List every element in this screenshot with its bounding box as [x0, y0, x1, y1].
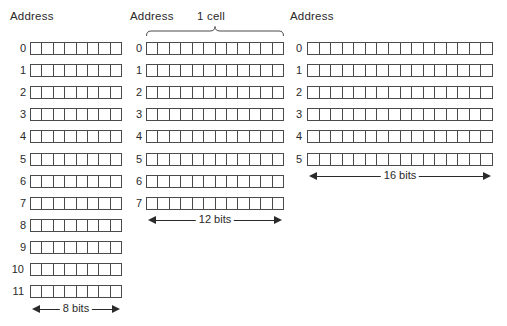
bit-box	[111, 65, 121, 76]
bit-box	[401, 154, 413, 165]
bit-box	[158, 176, 169, 187]
bit-box	[435, 65, 447, 76]
bit-box	[158, 109, 169, 120]
bit-box	[65, 220, 76, 231]
bit-box	[65, 242, 76, 253]
bit-box	[447, 109, 459, 120]
bit-box	[308, 131, 320, 142]
bit-box	[412, 43, 424, 54]
arrow-right-icon	[483, 172, 491, 180]
memory-cell	[30, 64, 122, 77]
bit-box	[65, 264, 76, 275]
bit-box	[481, 65, 492, 76]
memory-cell	[30, 42, 122, 55]
bit-box	[354, 43, 366, 54]
memory-cell	[30, 219, 122, 232]
bit-box	[111, 198, 121, 209]
bit-box	[204, 198, 215, 209]
address-number: 2	[288, 86, 302, 98]
bit-box	[65, 131, 76, 142]
bit-box	[204, 43, 215, 54]
bit-box	[238, 154, 249, 165]
bit-box	[366, 87, 378, 98]
bit-box	[111, 87, 121, 98]
bit-box	[261, 154, 272, 165]
memory-cell	[146, 175, 284, 188]
bit-box	[54, 131, 65, 142]
bit-box	[181, 65, 192, 76]
bit-box	[77, 220, 88, 231]
bit-box	[447, 65, 459, 76]
bit-box	[54, 43, 65, 54]
bit-box	[77, 198, 88, 209]
bit-box	[204, 154, 215, 165]
bit-box	[354, 109, 366, 120]
cell-label: 1 cell	[197, 10, 225, 22]
bit-box	[273, 43, 283, 54]
bit-box	[204, 131, 215, 142]
width-label: 16 bits	[381, 169, 419, 181]
bit-box	[308, 87, 320, 98]
bit-box	[435, 87, 447, 98]
bit-box	[216, 154, 227, 165]
bit-box	[216, 87, 227, 98]
bit-box	[88, 131, 99, 142]
address-number: 10	[10, 263, 24, 275]
bit-box	[54, 264, 65, 275]
brace-icon	[146, 26, 284, 38]
address-header: Address	[130, 10, 174, 22]
bit-box	[31, 242, 42, 253]
bit-box	[158, 43, 169, 54]
address-number: 0	[12, 42, 26, 54]
bit-box	[273, 176, 283, 187]
bit-box	[458, 87, 470, 98]
bit-box	[204, 65, 215, 76]
bit-box	[320, 43, 332, 54]
bit-box	[458, 154, 470, 165]
bit-box	[447, 87, 459, 98]
bit-box	[250, 43, 261, 54]
memory-cell	[146, 108, 284, 121]
bit-box	[401, 87, 413, 98]
bit-box	[401, 43, 413, 54]
memory-cell	[146, 153, 284, 166]
bit-box	[54, 154, 65, 165]
address-number: 5	[128, 153, 142, 165]
bit-box	[54, 109, 65, 120]
bit-box	[238, 43, 249, 54]
bit-box	[331, 131, 343, 142]
bit-box	[412, 109, 424, 120]
bit-box	[181, 109, 192, 120]
bit-box	[481, 109, 492, 120]
bit-box	[354, 87, 366, 98]
width-label: 12 bits	[196, 213, 234, 225]
bit-box	[181, 176, 192, 187]
bit-box	[77, 264, 88, 275]
bit-box	[227, 176, 238, 187]
memory-cell	[307, 108, 493, 121]
memory-cell	[307, 64, 493, 77]
bit-box	[54, 176, 65, 187]
bit-box	[343, 154, 355, 165]
bit-box	[54, 198, 65, 209]
bit-box	[193, 154, 204, 165]
bit-box	[77, 87, 88, 98]
bit-box	[216, 198, 227, 209]
bit-box	[77, 65, 88, 76]
bit-box	[227, 154, 238, 165]
bit-box	[158, 65, 169, 76]
bit-box	[424, 87, 436, 98]
bit-box	[435, 109, 447, 120]
bit-box	[111, 286, 121, 297]
bit-box	[343, 109, 355, 120]
memory-cell	[30, 108, 122, 121]
address-number: 5	[288, 153, 302, 165]
bit-box	[227, 65, 238, 76]
bit-box	[99, 220, 110, 231]
bit-box	[31, 109, 42, 120]
bit-box	[65, 198, 76, 209]
arrow-left-icon	[309, 172, 317, 180]
memory-cell	[307, 42, 493, 55]
bit-box	[458, 109, 470, 120]
bit-box	[111, 43, 121, 54]
